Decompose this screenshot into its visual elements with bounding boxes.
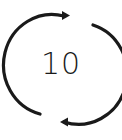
seconds-label: 10 [0, 44, 122, 84]
replay-10-button[interactable]: 10 [0, 0, 122, 140]
